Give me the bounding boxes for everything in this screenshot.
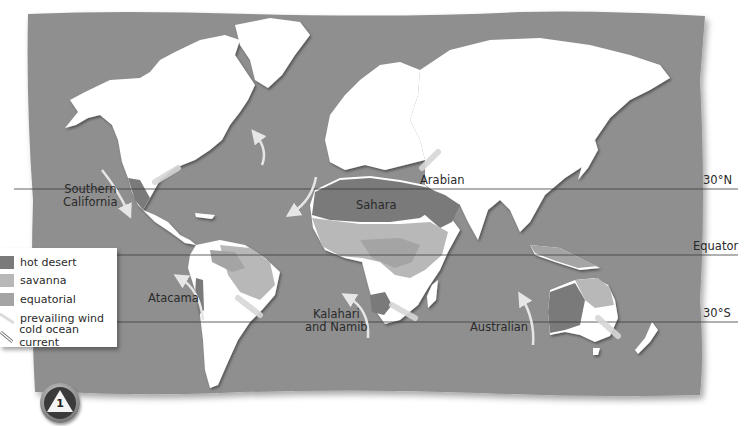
badge-number: 1 xyxy=(44,397,76,410)
prevailing-wind-arrow-icon xyxy=(0,312,14,325)
legend-item-equatorial: equatorial xyxy=(0,291,76,307)
cold-ocean-current-arrow-icon xyxy=(0,330,13,343)
label-sahara: Sahara xyxy=(356,199,396,212)
legend-label: equatorial xyxy=(20,293,76,306)
world-map xyxy=(0,0,745,426)
legend-item-savanna: savanna xyxy=(0,272,66,288)
legend-item-hot-desert: hot desert xyxy=(0,254,77,270)
legend-item-cold-ocean-current: cold ocean current xyxy=(0,328,117,344)
latitude-label-equator: Equator xyxy=(693,240,738,253)
hot-desert-swatch-icon xyxy=(0,256,14,269)
legend-label: hot desert xyxy=(20,256,77,269)
latitude-label-30s: 30°S xyxy=(703,307,731,320)
label-line: and Namib xyxy=(305,321,368,334)
equatorial-swatch-icon xyxy=(0,293,14,306)
label-kalahari-namib: Kalahari and Namib xyxy=(305,308,368,334)
triangle-badge-icon: 1 xyxy=(40,383,80,423)
legend-label: savanna xyxy=(20,274,66,287)
label-arabian: Arabian xyxy=(420,174,464,187)
legend-label: cold ocean current xyxy=(19,323,117,349)
savanna-swatch-icon xyxy=(0,274,14,287)
badge-inner: 1 xyxy=(44,387,76,419)
label-line: California xyxy=(63,196,118,209)
label-southern-california: Southern California xyxy=(63,183,118,209)
label-atacama: Atacama xyxy=(148,292,199,305)
latitude-label-30n: 30°N xyxy=(703,174,732,187)
legend: hot desert savanna equatorial prevailing… xyxy=(0,248,117,347)
label-australian: Australian xyxy=(470,321,528,334)
